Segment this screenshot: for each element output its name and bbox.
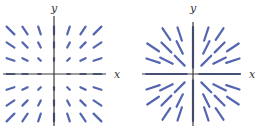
field-segment — [146, 85, 159, 89]
field-segment — [80, 58, 85, 61]
field-segment — [213, 58, 226, 64]
field-segment — [204, 107, 208, 120]
field-segment — [163, 28, 171, 40]
field-segment — [38, 100, 41, 105]
field-segment — [213, 84, 226, 90]
field-segment — [7, 42, 15, 47]
field-segment — [80, 42, 85, 47]
field-segment — [226, 58, 239, 62]
field-segment — [215, 96, 225, 106]
field-segment — [227, 44, 239, 52]
field-segment — [94, 42, 102, 47]
field-segment — [216, 28, 224, 40]
field-segment — [203, 41, 209, 54]
right-y-axis-label: y — [189, 2, 197, 15]
field-segment — [67, 87, 70, 90]
field-segment — [67, 27, 70, 35]
field-segment — [175, 82, 185, 92]
field-segment — [38, 87, 41, 90]
field-segment — [94, 87, 102, 90]
field-segment — [161, 42, 171, 52]
field-segment — [201, 82, 211, 92]
left-y-axis-label: y — [50, 2, 58, 15]
field-segment — [160, 58, 173, 64]
field-segment — [7, 87, 15, 90]
field-segment — [80, 114, 85, 122]
field-segment — [22, 87, 27, 90]
field-segment — [147, 44, 159, 52]
field-segment — [38, 114, 41, 122]
field-segment — [22, 27, 27, 35]
field-segment — [7, 114, 15, 122]
field-segment — [146, 58, 159, 62]
field-segment — [7, 58, 15, 61]
field-segment — [177, 27, 181, 40]
field-segment — [226, 85, 239, 89]
field-segment — [147, 97, 159, 105]
field-segment — [177, 94, 183, 107]
field-segment — [80, 100, 85, 105]
right-vector-field-plot: x y — [142, 2, 256, 126]
field-segment — [161, 96, 171, 106]
field-segment — [67, 100, 70, 105]
field-segment — [80, 87, 85, 90]
field-segment — [94, 27, 102, 35]
field-segment — [22, 100, 27, 105]
field-segment — [94, 58, 102, 61]
field-segment — [7, 100, 15, 105]
field-segment — [7, 27, 15, 35]
field-segment — [38, 58, 41, 61]
field-segment — [204, 27, 208, 40]
field-segment — [94, 100, 102, 105]
right-x-axis-label: x — [249, 68, 256, 81]
field-segment — [163, 108, 171, 120]
field-segment — [201, 56, 211, 66]
field-segment — [216, 108, 224, 120]
field-segment — [67, 114, 70, 122]
field-segment — [227, 97, 239, 105]
field-segment — [203, 94, 209, 107]
left-vector-field-plot: x y — [3, 2, 121, 126]
field-segment — [177, 41, 183, 54]
field-segment — [94, 114, 102, 122]
field-segment — [67, 42, 70, 47]
left-x-axis-label: x — [114, 68, 121, 81]
field-segment — [80, 27, 85, 35]
field-segment — [38, 27, 41, 35]
field-segment — [215, 42, 225, 52]
field-segment — [160, 84, 173, 90]
field-segment — [22, 114, 27, 122]
field-segment — [177, 107, 181, 120]
field-segment — [175, 56, 185, 66]
field-segment — [22, 42, 27, 47]
figure-canvas: x y x y — [0, 0, 260, 130]
field-segment — [22, 58, 27, 61]
field-segment — [67, 58, 70, 61]
field-segment — [38, 42, 41, 47]
